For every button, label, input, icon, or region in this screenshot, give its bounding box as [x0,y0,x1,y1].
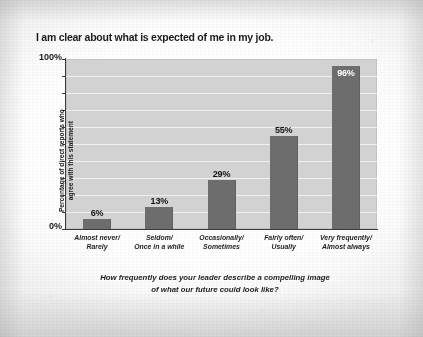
gridline-60 [66,127,377,128]
bar-4[interactable] [332,66,360,229]
gridline-80 [66,93,377,94]
x-axis-caption-line-2: of what our future could look like? [50,284,380,296]
y-tick-label-100: 100% [30,52,62,62]
plot-area-wrapper [66,59,377,229]
x-category-label-4-line-0: Very frequently/ [309,233,383,242]
bar-2[interactable] [208,180,236,229]
chart-page: I am clear about what is expected of me … [0,0,423,337]
gridline-40 [66,161,377,162]
gridline-50 [66,144,377,145]
x-axis-caption: How frequently does your leader describe… [50,272,380,295]
x-category-label-4-line-1: Almost always [309,242,383,251]
bar-1[interactable] [145,207,173,229]
bar-value-label-4: 96% [323,68,369,78]
x-axis-line [65,229,378,230]
bar-value-label-0: 6% [74,208,120,218]
y-tick-label-0: 0% [30,221,62,231]
x-category-label-4: Very frequently/Almost always [309,233,383,252]
x-axis-caption-line-1: How frequently does your leader describe… [50,272,380,284]
bar-value-label-2: 29% [199,169,245,179]
page-title: I am clear about what is expected of me … [36,31,273,43]
bar-value-label-3: 55% [261,125,307,135]
bar-0[interactable] [83,219,111,229]
gridline-70 [66,110,377,111]
y-axis-label-line-2: agree with this statement [67,73,76,248]
bar-3[interactable] [270,136,298,230]
bar-value-label-1: 13% [136,196,182,206]
